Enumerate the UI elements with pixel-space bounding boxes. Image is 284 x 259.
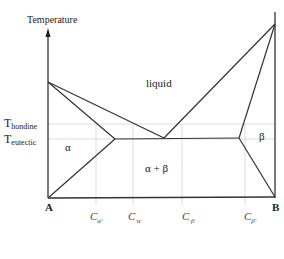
c-alpha-label: C·α bbox=[128, 210, 141, 225]
arrow-up-icon bbox=[46, 28, 51, 37]
phase-diagram-svg bbox=[0, 0, 284, 259]
c-alpha-sub: ·α bbox=[135, 217, 140, 225]
corner-a-label: A bbox=[45, 201, 53, 213]
phase-diagram: Temperature Thondine Teutectic liquid α … bbox=[0, 0, 284, 259]
corner-b-label: B bbox=[272, 201, 279, 213]
t-hondine-sub: hondine bbox=[11, 122, 37, 131]
region-alpha-label: α bbox=[65, 141, 71, 153]
solidus-right bbox=[239, 24, 275, 138]
region-beta-label: β bbox=[259, 130, 265, 142]
bottom-axis bbox=[48, 197, 275, 198]
c-alpha-prime-label: Cα' bbox=[90, 210, 103, 225]
c-beta-label: C·β bbox=[182, 210, 195, 225]
liquidus-right bbox=[164, 24, 275, 138]
solvus-right bbox=[239, 138, 275, 197]
c-beta-prime-label: Cβ' bbox=[244, 210, 256, 225]
c-beta-prime-sub: β' bbox=[251, 217, 256, 225]
c-beta-sub: ·β bbox=[189, 217, 194, 225]
t-hondine-label: Thondine bbox=[4, 116, 37, 131]
y-axis-label: Temperature bbox=[27, 14, 77, 25]
t-eutectic-label: Teutectic bbox=[4, 132, 36, 147]
liquidus-left bbox=[48, 82, 164, 138]
region-liquid-label: liquid bbox=[146, 77, 172, 89]
solvus-left bbox=[48, 139, 115, 198]
solidus-left bbox=[48, 82, 115, 139]
region-alpha-beta-label: α + β bbox=[145, 162, 168, 174]
c-alpha-prime-sub: α' bbox=[97, 217, 102, 225]
t-eutectic-sub: eutectic bbox=[11, 138, 36, 147]
